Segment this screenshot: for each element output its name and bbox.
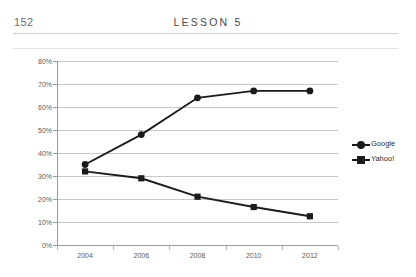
x-axis-tick-mark bbox=[169, 246, 170, 250]
google-marker-icon bbox=[352, 144, 370, 146]
y-axis-tick-mark bbox=[53, 199, 57, 200]
x-axis-tick-mark bbox=[338, 246, 339, 250]
series-line-google bbox=[85, 91, 310, 165]
data-point-marker[interactable] bbox=[251, 204, 257, 210]
page-header: 152 LESSON 5 bbox=[0, 0, 416, 46]
x-axis-tick-mark bbox=[113, 246, 114, 250]
y-axis-tick-mark bbox=[53, 84, 57, 85]
x-axis-tick-label: 2012 bbox=[285, 252, 335, 259]
legend-label-google: Google bbox=[371, 139, 395, 148]
data-point-marker[interactable] bbox=[307, 213, 313, 219]
data-point-marker[interactable] bbox=[138, 175, 144, 181]
x-axis-tick-label: 2006 bbox=[116, 252, 166, 259]
legend-label-yahoo: Yahoo! bbox=[371, 154, 394, 163]
x-axis-tick-label: 2004 bbox=[60, 252, 110, 259]
y-axis-tick-mark bbox=[53, 176, 57, 177]
data-point-marker[interactable] bbox=[138, 131, 145, 138]
data-point-marker[interactable] bbox=[82, 168, 88, 174]
data-point-marker[interactable] bbox=[194, 94, 201, 101]
running-head-title: LESSON 5 bbox=[0, 16, 416, 28]
line-chart: 0%10%20%30%40%50%60%70%80% Google Yahoo!… bbox=[0, 46, 416, 277]
header-divider bbox=[13, 33, 398, 34]
legend-item-yahoo[interactable]: Yahoo! bbox=[352, 155, 414, 170]
x-axis-tick-label: 2008 bbox=[173, 252, 223, 259]
y-axis-tick-mark bbox=[53, 222, 57, 223]
yahoo-marker-icon bbox=[352, 159, 370, 161]
y-axis-tick-mark bbox=[53, 130, 57, 131]
data-point-marker[interactable] bbox=[82, 161, 89, 168]
y-axis-tick-mark bbox=[53, 107, 57, 108]
x-axis-tick-mark bbox=[226, 246, 227, 250]
x-axis-tick-mark bbox=[282, 246, 283, 250]
data-point-marker[interactable] bbox=[194, 194, 200, 200]
legend-item-google[interactable]: Google bbox=[352, 140, 414, 155]
data-point-marker[interactable] bbox=[307, 88, 314, 95]
y-axis-tick-mark bbox=[53, 153, 57, 154]
x-axis-tick-mark bbox=[57, 246, 58, 250]
x-axis-tick-label: 2010 bbox=[229, 252, 279, 259]
y-axis-tick-mark bbox=[53, 61, 57, 62]
chart-legend: Google Yahoo! bbox=[352, 140, 414, 170]
data-point-marker[interactable] bbox=[250, 88, 257, 95]
